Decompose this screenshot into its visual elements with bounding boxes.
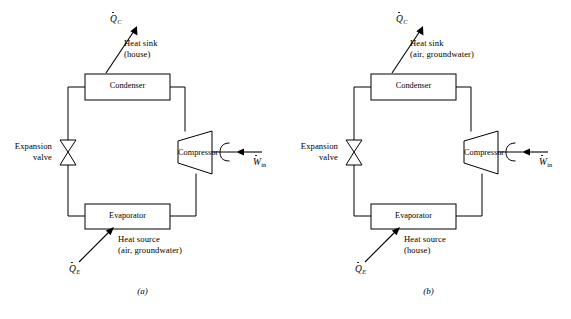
compressor-label: Compressor: [178, 148, 218, 159]
figure-root: Condenser Evaporator Compressor Expansio…: [0, 0, 571, 319]
expansion-valve-label: Expansion valve: [0, 141, 52, 162]
expansion-valve-label: Expansion valve: [286, 141, 338, 162]
heat-rejected-subscript: C: [403, 18, 407, 25]
heat-absorbed-subscript: E: [76, 268, 80, 275]
heat-source-label-line1: Heat source: [118, 234, 160, 244]
heat-absorbed-symbol: QE: [355, 264, 366, 274]
heat-absorbed-subscript: E: [362, 268, 366, 275]
work-input-subscript: in: [261, 161, 266, 168]
heat-rejected-symbol: QC: [396, 14, 407, 24]
expansion-valve-label-line1: Expansion: [301, 141, 338, 151]
panel-caption-a: (a): [0, 286, 285, 296]
compressor-label: Compressor: [464, 148, 504, 159]
heat-sink-label-line2: (air, groundwater): [410, 49, 474, 59]
heat-sink-label-line1: Heat sink: [410, 38, 444, 48]
heat-sink-label-line1: Heat sink: [124, 38, 158, 48]
heat-rejected-symbol: QC: [110, 14, 121, 24]
evaporator-label: Evaporator: [371, 211, 456, 222]
heat-absorbed-base: Q: [69, 264, 76, 274]
condenser-label: Condenser: [85, 81, 170, 92]
heat-rejected-base: Q: [110, 14, 117, 24]
heat-sink-label-line2: (house): [124, 49, 150, 59]
panel-a: Condenser Evaporator Compressor Expansio…: [0, 0, 285, 319]
heat-sink-label: Heat sink (house): [124, 38, 158, 59]
heat-rejected-subscript: C: [117, 18, 121, 25]
panel-caption-b: (b): [286, 286, 571, 296]
panel-b: Condenser Evaporator Compressor Expansio…: [286, 0, 571, 319]
expansion-valve-label-line1: Expansion: [15, 141, 52, 151]
expansion-valve-label-line2: valve: [33, 152, 52, 162]
heat-source-label: Heat source (house): [404, 234, 446, 255]
heat-absorbed-base: Q: [355, 264, 362, 274]
condenser-label: Condenser: [371, 81, 456, 92]
work-input-base: W: [539, 157, 547, 167]
heat-absorbed-symbol: QE: [69, 264, 80, 274]
heat-rejected-base: Q: [396, 14, 403, 24]
heat-source-label-line2: (air, groundwater): [118, 245, 182, 255]
work-input-symbol: Win: [539, 157, 552, 167]
evaporator-label: Evaporator: [85, 211, 170, 222]
heat-source-label-line1: Heat source: [404, 234, 446, 244]
heat-sink-label: Heat sink (air, groundwater): [410, 38, 474, 59]
heat-source-label: Heat source (air, groundwater): [118, 234, 182, 255]
heat-source-label-line2: (house): [404, 245, 430, 255]
work-input-symbol: Win: [253, 157, 266, 167]
expansion-valve-label-line2: valve: [319, 152, 338, 162]
work-input-subscript: in: [547, 161, 552, 168]
work-input-base: W: [253, 157, 261, 167]
